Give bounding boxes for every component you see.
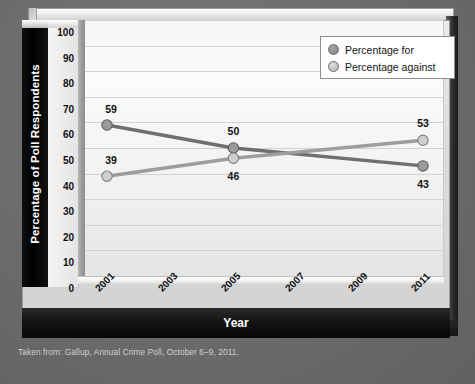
x-axis-title-band: Year: [22, 308, 450, 338]
y-axis-tick-80: 80: [63, 78, 74, 89]
point-label-against-2005: 46: [228, 170, 240, 182]
plot-floor: [78, 276, 444, 284]
data-point-for-2011[interactable]: [418, 161, 428, 171]
legend-dot-against-icon: [328, 61, 339, 72]
y-axis-tick-column: 1009080706050403020100: [48, 20, 79, 287]
y-axis-tick-20: 20: [63, 231, 74, 242]
y-axis-tick-40: 40: [63, 180, 74, 191]
legend-dot-for-icon: [328, 44, 339, 55]
y-axis-tick-30: 30: [63, 206, 74, 217]
y-axis-tick-90: 90: [63, 52, 74, 63]
data-point-against-2001[interactable]: [102, 171, 112, 181]
x-axis-title: Year: [22, 316, 450, 330]
chart-3d-container: Percentage of Poll Respondents 100908070…: [18, 8, 458, 336]
legend-item-for[interactable]: Percentage for: [328, 41, 447, 58]
y-axis-band-bevel: [22, 20, 48, 28]
data-point-against-2011[interactable]: [418, 135, 428, 145]
y-axis-tick-60: 60: [63, 129, 74, 140]
legend-item-against[interactable]: Percentage against: [328, 58, 447, 75]
y-axis-title-band: Percentage of Poll Respondents: [22, 20, 49, 287]
data-point-against-2005[interactable]: [228, 153, 238, 163]
point-label-against-2011: 53: [417, 117, 429, 129]
legend-label-against: Percentage against: [345, 61, 435, 73]
y-axis-tick-70: 70: [63, 103, 74, 114]
axis-riser: [78, 20, 85, 282]
y-axis-tick-100: 100: [57, 27, 74, 38]
legend-label-for: Percentage for: [345, 44, 414, 56]
point-label-for-2011: 43: [417, 178, 429, 190]
point-label-against-2001: 39: [105, 154, 117, 166]
series-line-against: [107, 140, 423, 176]
y-axis-tick-10: 10: [63, 257, 74, 268]
y-axis-tick-0: 0: [68, 283, 74, 294]
point-label-for-2001: 59: [105, 103, 117, 115]
point-label-for-2005: 50: [228, 125, 240, 137]
legend[interactable]: Percentage for Percentage against: [320, 36, 455, 79]
data-point-for-2001[interactable]: [102, 120, 112, 130]
y-axis-tick-50: 50: [63, 155, 74, 166]
source-note: Taken from: Gallup, Annual Crime Poll, O…: [18, 348, 239, 357]
data-point-for-2005[interactable]: [228, 143, 238, 153]
y-axis-title: Percentage of Poll Respondents: [29, 64, 41, 243]
chart-figure: Percentage of Poll Respondents 100908070…: [0, 0, 475, 384]
